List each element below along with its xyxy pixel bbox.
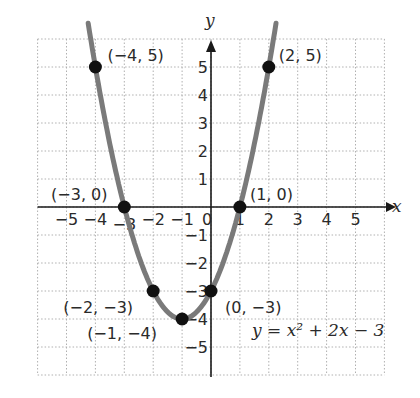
point-label: (−3, 0) [51, 185, 107, 204]
data-point [147, 285, 160, 298]
point-label: (−1, −4) [87, 324, 157, 343]
x-axis-label: x [392, 196, 402, 216]
svg-text:2: 2 [264, 210, 274, 229]
svg-text:−1: −1 [184, 226, 208, 245]
data-point [118, 201, 131, 214]
point-label: (0, −3) [225, 298, 281, 317]
point-label: (2, 5) [279, 46, 322, 65]
svg-text:1: 1 [198, 170, 208, 189]
point-label: (−2, −3) [63, 298, 133, 317]
svg-text:3: 3 [198, 114, 208, 133]
y-axis-label: y [204, 10, 215, 30]
data-point [205, 285, 218, 298]
svg-text:−5: −5 [184, 338, 208, 357]
svg-text:5: 5 [198, 58, 208, 77]
data-point [233, 201, 246, 214]
data-point [262, 61, 275, 74]
parabola-chart: −5−4−3−2−101234554321−1−2−3−4−5 (−4, 5)(… [0, 0, 420, 398]
equation-label: y = x² + 2x − 3 [251, 320, 384, 340]
svg-text:4: 4 [322, 210, 332, 229]
svg-text:−2: −2 [184, 254, 208, 273]
svg-text:2: 2 [198, 142, 208, 161]
svg-text:−5: −5 [55, 210, 79, 229]
svg-text:5: 5 [350, 210, 360, 229]
data-point [89, 61, 102, 74]
point-label: (1, 0) [250, 185, 293, 204]
point-label: (−4, 5) [107, 46, 163, 65]
svg-text:3: 3 [293, 210, 303, 229]
data-point [176, 313, 189, 326]
svg-text:−4: −4 [84, 210, 108, 229]
svg-text:−2: −2 [141, 210, 165, 229]
svg-text:4: 4 [198, 86, 208, 105]
